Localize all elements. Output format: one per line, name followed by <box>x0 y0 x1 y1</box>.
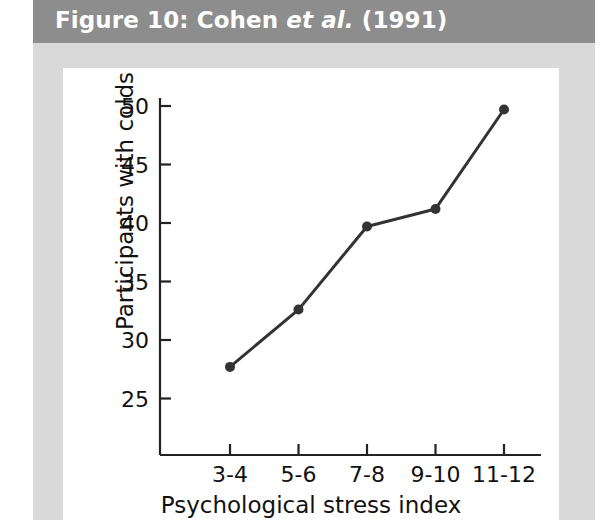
chart-plot-svg <box>63 68 559 520</box>
caption-italic: et al. <box>286 7 353 33</box>
figure-caption-bar: Figure 10: Cohen et al. (1991) <box>33 0 595 43</box>
x-axis-tick-label: 11-12 <box>472 462 536 487</box>
x-axis-tick-label: 7-8 <box>349 462 385 487</box>
figure-page: Figure 10: Cohen et al. (1991) Participa… <box>0 0 615 520</box>
data-point <box>225 362 235 372</box>
caption-prefix: Figure 10: Cohen <box>55 7 286 33</box>
data-markers <box>225 105 509 372</box>
data-point <box>499 105 509 115</box>
data-point <box>431 204 441 214</box>
x-axis-tick-label: 3-4 <box>212 462 248 487</box>
figure-caption-text: Figure 10: Cohen et al. (1991) <box>55 7 447 33</box>
y-axis-tick-label: 25 <box>83 386 149 411</box>
data-point <box>362 222 372 232</box>
x-axis-title: Psychological stress index <box>63 492 559 518</box>
caption-suffix: (1991) <box>354 7 448 33</box>
x-axis-ticks <box>230 444 504 455</box>
y-axis-tick-label: 50 <box>83 94 149 119</box>
data-point <box>294 305 304 315</box>
y-axis-tick-label: 35 <box>83 269 149 294</box>
data-line <box>230 110 504 367</box>
x-axis-tick-label: 5-6 <box>281 462 317 487</box>
y-axis-tick-label: 40 <box>83 211 149 236</box>
y-axis-tick-label: 30 <box>83 328 149 353</box>
x-axis-tick-label: 9-10 <box>411 462 461 487</box>
y-axis-ticks <box>160 106 171 399</box>
y-axis-tick-label: 45 <box>83 152 149 177</box>
chart-panel: Participants with colds 504540353025 3-4… <box>63 68 559 520</box>
